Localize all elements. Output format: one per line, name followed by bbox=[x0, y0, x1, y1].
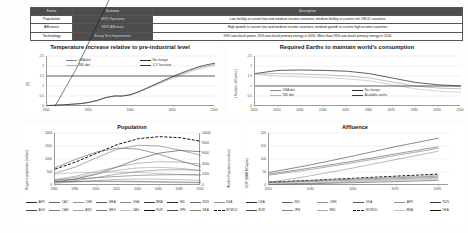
data-series-line bbox=[269, 138, 438, 172]
legend-swatch bbox=[66, 65, 77, 66]
legend-label: OAS bbox=[133, 208, 140, 212]
legend-swatch bbox=[144, 202, 155, 203]
chart-legend: USAEURINDJPNCHNMIDUSAWORLDAFRBRARUSSEA bbox=[246, 198, 466, 214]
plot-area bbox=[54, 133, 200, 185]
legend-swatch bbox=[96, 202, 107, 203]
legend-item: OAS bbox=[120, 208, 144, 212]
legend-label: MEA bbox=[109, 200, 116, 204]
legend-swatch bbox=[317, 202, 328, 203]
legend-swatch bbox=[73, 210, 84, 211]
y-axis-tick-right: 2000 bbox=[202, 172, 218, 176]
y-axis-label-right: World's Population (million) bbox=[227, 150, 231, 188]
legend-swatch bbox=[120, 210, 131, 211]
legend-swatch bbox=[73, 202, 84, 203]
x-axis-tick: 2050 bbox=[163, 108, 181, 112]
legend-item: BRA bbox=[394, 208, 430, 212]
legend-label: USA bbox=[366, 200, 372, 204]
legend-label: JPN bbox=[180, 208, 186, 212]
legend-label: USA bbox=[259, 200, 265, 204]
x-axis-tick: 2000 bbox=[121, 108, 139, 112]
chart-legend: USA dietNo changeIND diet1,5° Increase bbox=[66, 58, 210, 67]
x-axis-tick: 2050 bbox=[337, 108, 355, 112]
y-axis-tick: 100 bbox=[252, 157, 266, 161]
data-series-line bbox=[55, 167, 201, 180]
y-axis-tick: 1 bbox=[238, 84, 252, 88]
legend-swatch bbox=[190, 202, 201, 203]
cell-factor-technology: Technology bbox=[31, 32, 73, 40]
legend-swatch bbox=[140, 60, 151, 61]
legend-swatch bbox=[49, 202, 60, 203]
legend-label: WORLD bbox=[366, 208, 378, 212]
legend-item: No change bbox=[352, 88, 430, 92]
legend-item: EUR bbox=[144, 208, 168, 212]
x-axis-tick: 2040 bbox=[128, 187, 146, 191]
legend-item: SSA bbox=[214, 200, 242, 204]
x-axis-tick: 2100 bbox=[205, 108, 223, 112]
legend-item: JPN bbox=[167, 208, 190, 212]
y-axis-tick: 500 bbox=[38, 170, 52, 174]
legend-item: WORLD bbox=[353, 208, 394, 212]
y-axis-label-left: Region's population (million) bbox=[25, 150, 29, 190]
legend-item: Available earths bbox=[352, 93, 430, 97]
chart-required-earths: Required Earths to maintain world's cons… bbox=[228, 44, 466, 118]
y-axis-tick: 0,5 bbox=[238, 94, 252, 98]
legend-label: No change bbox=[365, 88, 380, 92]
y-axis-tick: 1000 bbox=[38, 157, 52, 161]
legend-item: AFR bbox=[394, 200, 430, 204]
legend-label: 1,5° Increase bbox=[153, 63, 172, 67]
legend-item: IND bbox=[282, 200, 317, 204]
legend-label: EUR bbox=[259, 208, 266, 212]
legend-swatch bbox=[214, 210, 225, 211]
legend-swatch bbox=[317, 210, 328, 211]
legend-swatch bbox=[120, 202, 131, 203]
chart-population: Population Region's population (million)… bbox=[22, 124, 242, 224]
x-axis-tick: 1960 bbox=[45, 187, 63, 191]
legend-swatch bbox=[352, 90, 363, 91]
data-series-line bbox=[47, 64, 215, 105]
legend-label: RUS bbox=[203, 200, 210, 204]
legend-item: RUS bbox=[430, 200, 466, 204]
legend-item: RUS bbox=[190, 200, 214, 204]
x-axis-tick: 2030 bbox=[291, 108, 309, 112]
y-axis-tick: 2 bbox=[238, 64, 252, 68]
cell-scenario-population: SSP1 Population bbox=[73, 15, 153, 23]
legend-label: EUR bbox=[156, 208, 163, 212]
x-axis-tick: 2090 bbox=[428, 187, 446, 191]
legend-item: MEA bbox=[96, 200, 120, 204]
legend-label: SSA bbox=[226, 200, 232, 204]
legend-swatch bbox=[167, 210, 178, 211]
y-axis-tick: 1500 bbox=[38, 144, 52, 148]
y-axis-tick: 2 bbox=[30, 64, 44, 68]
legend-swatch bbox=[66, 60, 77, 61]
legend-item: IND diet bbox=[270, 93, 348, 97]
data-series-line bbox=[269, 179, 438, 184]
x-axis-tick: 2060 bbox=[149, 187, 167, 191]
legend-label: RUS bbox=[443, 200, 450, 204]
legend-item: No change bbox=[140, 58, 210, 62]
header-description: Description bbox=[153, 8, 463, 16]
x-axis-tick: 2090 bbox=[428, 108, 446, 112]
legend-label: CAN bbox=[62, 208, 69, 212]
legend-label: AFR bbox=[39, 200, 45, 204]
plot-area bbox=[268, 133, 448, 185]
legend-item: CAC bbox=[49, 200, 73, 204]
legend-item: JPN bbox=[282, 208, 317, 212]
legend-item: USA diet bbox=[270, 88, 348, 92]
legend-swatch bbox=[49, 210, 60, 211]
legend-item: MID bbox=[317, 208, 353, 212]
legend-swatch bbox=[246, 210, 257, 211]
data-series-line bbox=[269, 148, 438, 175]
legend-label: USA diet bbox=[283, 88, 295, 92]
legend-item: CHN bbox=[73, 200, 97, 204]
legend-label: MID bbox=[330, 208, 336, 212]
x-axis-tick: 2100 bbox=[191, 187, 209, 191]
x-axis-tick: 2020 bbox=[268, 108, 286, 112]
x-axis-tick: 2010 bbox=[259, 187, 277, 191]
legend-swatch bbox=[430, 202, 441, 203]
legend-label: SEA bbox=[443, 208, 449, 212]
x-axis-tick: 2020 bbox=[108, 187, 126, 191]
legend-swatch bbox=[353, 202, 364, 203]
legend-swatch bbox=[430, 210, 441, 211]
x-axis-tick: 1980 bbox=[66, 187, 84, 191]
scenario-table: Factor Scenario Description Population S… bbox=[30, 7, 463, 41]
